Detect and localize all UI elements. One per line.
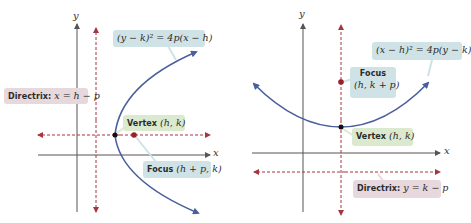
right-y-axis-label: y [299,8,305,19]
right-directrix-label: Directrix: y = k − p [353,180,441,198]
left-vertex-label: Vertex (h, k) [123,115,185,131]
left-directrix-expr: x = h − p [54,90,100,101]
left-equation-pointer [168,46,176,60]
right-parabola [254,84,341,127]
right-x-axis-label: x [444,145,450,156]
left-x-axis-label: x [213,147,219,158]
left-directrix-label: Directrix: x = h − p [4,88,88,104]
right-equation-text: (x − h)² = 4p(y − k) [376,44,471,55]
right-vertex-prefix: Vertex [356,132,386,141]
left-focus-prefix: Focus [147,165,173,174]
right-focus-expr: (h, k + p) [354,79,392,90]
left-equation-text: (y − k)² = 4p(x − h) [117,32,212,43]
left-focus-pointer [136,137,156,162]
right-equation-label: (x − h)² = 4p(y − k) [372,42,462,60]
left-directrix-prefix: Directrix: [8,92,51,101]
right-directrix-expr: y = k − p [403,182,448,193]
left-equation-label: (y − k)² = 4p(x − h) [113,30,205,47]
right-focus-label: Focus (h, k + p) [350,67,396,98]
right-vertex-expr: (h, k) [389,130,414,141]
right-vertex-point [339,125,344,130]
right-focus-prefix: Focus [354,69,392,79]
left-focus-point [131,132,137,138]
left-vertex-prefix: Vertex [127,119,157,128]
left-focus-label: Focus (h + p, k) [143,161,211,178]
left-focus-expr: (h + p, k) [176,163,221,174]
left-vertex-point [113,133,118,138]
left-y-axis-label: y [73,10,79,21]
right-focus-point [338,79,344,85]
right-directrix-prefix: Directrix: [357,184,400,193]
right-vertex-label: Vertex (h, k) [352,128,413,146]
right-equation-pointer [428,60,432,76]
left-vertex-expr: (h, k) [160,117,185,128]
